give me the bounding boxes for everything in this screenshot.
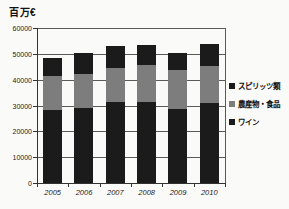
- x-axis-label-2010: 2010: [194, 188, 225, 197]
- bar-2006: [74, 53, 93, 183]
- x-axis-tick: [68, 184, 69, 187]
- y-axis-tick-label: 40000: [2, 77, 32, 84]
- bar-segment-ワイン: [74, 108, 93, 183]
- x-axis-label-2007: 2007: [100, 188, 131, 197]
- bar-segment-スピリッツ類: [168, 53, 187, 71]
- y-axis-tick: [33, 28, 37, 36]
- x-axis-tick: [194, 184, 195, 187]
- legend-label-agri-food: 農産物・食品: [238, 98, 280, 109]
- bar-segment-ワイン: [106, 102, 125, 183]
- bar-2005: [43, 58, 62, 183]
- y-axis-tick: [33, 106, 37, 114]
- bar-segment-スピリッツ類: [74, 53, 93, 74]
- x-axis-tick: [225, 184, 226, 187]
- legend-item-agri-food: 農産物・食品: [229, 98, 280, 109]
- x-axis-tick: [100, 184, 101, 187]
- x-axis-line: [33, 183, 226, 184]
- y-axis-tick-label: 60000: [2, 25, 32, 32]
- x-axis-tick: [162, 184, 163, 187]
- y-axis-tick: [33, 54, 37, 62]
- legend-item-spirits: スピリッツ類: [229, 80, 280, 91]
- x-axis-labels: 200520062007200820092010: [37, 188, 225, 197]
- y-axis-tick: [33, 131, 37, 139]
- legend-label-wine: ワイン: [238, 116, 259, 127]
- x-axis-tick: [131, 184, 132, 187]
- bar-segment-農産物・食品: [168, 70, 187, 108]
- bar-segment-農産物・食品: [106, 68, 125, 102]
- bar-2007: [106, 46, 125, 183]
- x-axis-label-2005: 2005: [37, 188, 68, 197]
- bar-2009: [168, 53, 187, 183]
- bar-segment-スピリッツ類: [106, 46, 125, 68]
- legend-label-spirits: スピリッツ類: [238, 80, 280, 91]
- x-axis-label-2008: 2008: [131, 188, 162, 197]
- stacked-bar-chart: 百万€ 0100002000030000400005000060000 2005…: [0, 0, 289, 209]
- y-axis-tick: [33, 80, 37, 88]
- legend-swatch-wine-icon: [229, 119, 235, 125]
- y-axis-tick-label: 20000: [2, 128, 32, 135]
- bars-area: [37, 28, 225, 183]
- bar-segment-ワイン: [43, 110, 62, 183]
- bar-segment-農産物・食品: [43, 76, 62, 110]
- bar-segment-ワイン: [200, 103, 219, 183]
- bar-segment-ワイン: [168, 109, 187, 183]
- y-axis-tick-label: 10000: [2, 154, 32, 161]
- y-axis-tick-label: 50000: [2, 51, 32, 58]
- legend-item-wine: ワイン: [229, 116, 280, 127]
- y-axis-tick: [33, 157, 37, 165]
- bar-segment-農産物・食品: [200, 66, 219, 103]
- chart-title: 百万€: [9, 4, 36, 19]
- bar-segment-スピリッツ類: [137, 45, 156, 65]
- y-axis-tick-label: 30000: [2, 103, 32, 110]
- legend-swatch-spirits-icon: [229, 83, 235, 89]
- bar-segment-ワイン: [137, 102, 156, 183]
- bar-segment-農産物・食品: [74, 74, 93, 108]
- bar-2008: [137, 45, 156, 183]
- legend-swatch-agri-food-icon: [229, 101, 235, 107]
- bar-segment-スピリッツ類: [43, 58, 62, 76]
- x-axis-tick: [37, 184, 38, 187]
- bar-2010: [200, 44, 219, 183]
- legend: スピリッツ類 農産物・食品 ワイン: [229, 80, 280, 127]
- y-axis-tick-label: 0: [2, 180, 32, 187]
- x-axis-label-2006: 2006: [68, 188, 99, 197]
- x-axis-label-2009: 2009: [162, 188, 193, 197]
- bar-segment-スピリッツ類: [200, 44, 219, 67]
- bar-segment-農産物・食品: [137, 65, 156, 101]
